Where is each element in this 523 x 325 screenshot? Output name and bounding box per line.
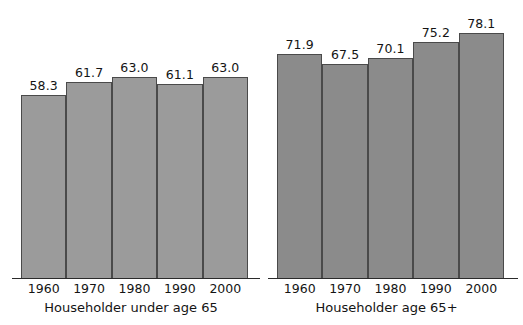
bar-under65-1980 <box>112 77 157 278</box>
bar-under65-1990 <box>157 84 202 278</box>
x-tick-label: 1960 <box>21 281 66 296</box>
axis-baseline-age-65-plus <box>268 278 518 279</box>
bar-column: 71.9 <box>277 54 322 278</box>
x-tick-label: 1990 <box>157 281 202 296</box>
chart-panel-under-65: 58.3 61.7 63.0 61.1 63.0 1960 <box>0 0 262 325</box>
bar-column: 61.1 <box>157 84 202 278</box>
bar-age65plus-1980 <box>368 58 413 278</box>
bar-value-label: 70.1 <box>376 41 404 56</box>
x-axis-tick-labels-age-65-plus: 1960 1970 1980 1990 2000 <box>277 281 505 297</box>
x-tick-label: 1970 <box>66 281 111 296</box>
bar-under65-1960 <box>21 95 66 278</box>
bar-value-label: 67.5 <box>331 47 359 62</box>
bar-under65-1970 <box>66 82 111 278</box>
x-tick-label: 1980 <box>368 281 413 296</box>
bar-group-age-65-plus: 71.9 67.5 70.1 75.2 78.1 <box>277 47 505 278</box>
bar-age65plus-1960 <box>277 54 322 278</box>
bar-value-label: 61.1 <box>166 67 194 82</box>
panel-caption-age-65-plus: Householder age 65+ <box>256 300 517 315</box>
bar-value-label: 63.0 <box>211 60 239 75</box>
bar-age65plus-2000 <box>459 33 504 278</box>
bar-value-label: 71.9 <box>286 37 314 52</box>
bar-chart: 58.3 61.7 63.0 61.1 63.0 1960 <box>0 0 523 325</box>
chart-panel-age-65-plus: 71.9 67.5 70.1 75.2 78.1 1960 <box>262 0 523 325</box>
x-tick-label: 1990 <box>413 281 458 296</box>
x-tick-label: 2000 <box>203 281 248 296</box>
bar-column: 75.2 <box>413 42 458 278</box>
bar-age65plus-1990 <box>413 42 458 278</box>
x-tick-label: 1970 <box>322 281 367 296</box>
bar-column: 78.1 <box>459 33 504 278</box>
bar-under65-2000 <box>203 77 248 278</box>
bar-value-label: 61.7 <box>75 65 103 80</box>
bar-column: 63.0 <box>203 77 248 278</box>
axis-baseline-under-65 <box>12 278 260 279</box>
bar-age65plus-1970 <box>322 64 367 278</box>
bar-value-label: 78.1 <box>467 16 495 31</box>
bar-column: 70.1 <box>368 58 413 278</box>
x-axis-tick-labels-under-65: 1960 1970 1980 1990 2000 <box>21 281 248 297</box>
x-tick-label: 1960 <box>277 281 322 296</box>
bar-column: 67.5 <box>322 64 367 278</box>
x-tick-label: 1980 <box>112 281 157 296</box>
bar-column: 63.0 <box>112 77 157 278</box>
panel-caption-under-65: Householder under age 65 <box>0 300 262 315</box>
bar-column: 58.3 <box>21 95 66 278</box>
x-tick-label: 2000 <box>459 281 504 296</box>
bar-group-under-65: 58.3 61.7 63.0 61.1 63.0 <box>21 47 248 278</box>
bar-value-label: 58.3 <box>30 78 58 93</box>
bar-value-label: 63.0 <box>120 60 148 75</box>
bar-column: 61.7 <box>66 82 111 278</box>
bar-value-label: 75.2 <box>422 25 450 40</box>
